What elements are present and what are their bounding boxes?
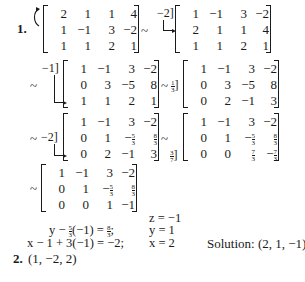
matrix-cell: 3 bbox=[225, 7, 247, 21]
matrix-cell: −1 bbox=[89, 62, 111, 76]
matrix-cell: 2 bbox=[209, 94, 231, 108]
matrix-cell: 3 bbox=[113, 115, 135, 129]
row-operation-label: 13] bbox=[171, 78, 179, 93]
matrix-cell: 3 bbox=[255, 94, 277, 108]
matrix-cell: 83 bbox=[255, 131, 277, 146]
solution: Solution: (2, 1, −1) bbox=[207, 236, 305, 252]
matrix-cell: 1 bbox=[247, 39, 269, 53]
matrix-cell: 0 bbox=[185, 147, 207, 161]
matrix-cell: −2 bbox=[247, 7, 269, 21]
matrix-cell: −1 bbox=[67, 166, 89, 180]
row-equivalent-symbol: ~ bbox=[141, 23, 148, 39]
matrix-cell: 0 bbox=[185, 131, 207, 145]
row-op-arrow-icon bbox=[54, 75, 63, 103]
matrix-cell: −73 bbox=[255, 147, 277, 162]
matrix-cell: 4 bbox=[115, 7, 137, 21]
row-op-arrow-icon bbox=[163, 20, 172, 31]
matrix-cell: 2 bbox=[177, 23, 199, 37]
matrix-cell: −1 bbox=[233, 94, 255, 108]
matrix-cell: 2 bbox=[93, 39, 115, 53]
problem-2-answer: (1, −2, 2) bbox=[28, 251, 77, 267]
matrix-cell: 1 bbox=[225, 23, 247, 37]
matrix-cell: 0 bbox=[43, 198, 65, 212]
row-equivalent-symbol: ~ bbox=[30, 78, 37, 94]
matrix-cell: −1 bbox=[113, 198, 135, 212]
problem-number-2: 2. bbox=[13, 251, 23, 267]
matrix-cell: 3 bbox=[89, 78, 111, 92]
matrix-cell: −2 bbox=[115, 23, 137, 37]
matrix-cell: 1 bbox=[89, 131, 111, 145]
matrix-5: 1−13−201−538302−13 bbox=[63, 113, 159, 161]
matrix-cell: 1 bbox=[45, 39, 67, 53]
swap-arrow-icon bbox=[32, 6, 42, 30]
matrix-cell: 0 bbox=[65, 147, 87, 161]
matrix-4: 1−13−203−5802−13 bbox=[183, 60, 279, 108]
matrix-cell: 1 bbox=[91, 198, 113, 212]
matrix-cell: 3 bbox=[113, 62, 135, 76]
matrix-cell: 8 bbox=[135, 78, 157, 92]
matrix-cell: 2 bbox=[113, 94, 135, 108]
matrix-cell: 1 bbox=[185, 115, 207, 129]
matrix-cell: 2 bbox=[89, 147, 111, 161]
matrix-cell: 1 bbox=[45, 23, 67, 37]
matrix-cell: 0 bbox=[185, 78, 207, 92]
matrix-cell: 3 bbox=[135, 147, 157, 161]
row-operation-label: −1] bbox=[42, 61, 59, 76]
matrix-cell: −1 bbox=[201, 7, 223, 21]
matrix-cell: 1 bbox=[65, 94, 87, 108]
matrix-cell: −5 bbox=[113, 78, 135, 92]
matrix-cell: 3 bbox=[233, 115, 255, 129]
matrix-cell: 1 bbox=[65, 115, 87, 129]
matrix-cell: −53 bbox=[91, 182, 113, 197]
x-value: x = 2 bbox=[149, 236, 175, 251]
matrix-2: 1−13−221141121 bbox=[175, 5, 271, 53]
matrix-cell: 0 bbox=[185, 94, 207, 108]
row-equivalent-symbol: ~ bbox=[161, 78, 168, 94]
matrix-cell: −2 bbox=[135, 115, 157, 129]
row-operation-label: 37] bbox=[170, 148, 178, 163]
matrix-cell: 83 bbox=[135, 131, 157, 146]
matrix-cell: 4 bbox=[247, 23, 269, 37]
matrix-cell: 1 bbox=[69, 39, 91, 53]
matrix-cell: −1 bbox=[113, 147, 135, 161]
matrix-cell: −5 bbox=[233, 78, 255, 92]
matrix-cell: 0 bbox=[67, 198, 89, 212]
matrix-cell: −1 bbox=[209, 115, 231, 129]
x-equation: x − 1 + 3(−1) = −2; bbox=[27, 236, 124, 251]
matrix-cell: −2 bbox=[135, 62, 157, 76]
matrix-cell: 1 bbox=[43, 166, 65, 180]
matrix-cell: −1 bbox=[89, 115, 111, 129]
matrix-cell: −53 bbox=[233, 131, 255, 146]
matrix-cell: −2 bbox=[255, 62, 277, 76]
matrix-cell: 1 bbox=[93, 7, 115, 21]
matrix-cell: 8 bbox=[255, 78, 277, 92]
row-equivalent-symbol: ~ bbox=[30, 181, 37, 197]
row-operation-label: −2] bbox=[41, 130, 58, 145]
matrix-cell: 1 bbox=[177, 39, 199, 53]
matrix-cell: 1 bbox=[69, 7, 91, 21]
matrix-cell: 1 bbox=[135, 94, 157, 108]
matrix-cell: −1 bbox=[69, 23, 91, 37]
matrix-cell: 3 bbox=[209, 78, 231, 92]
matrix-cell: −1 bbox=[209, 62, 231, 76]
matrix-cell: −2 bbox=[255, 115, 277, 129]
matrix-cell: 0 bbox=[209, 147, 231, 161]
matrix-6: 1−13−201−53830073−73 bbox=[183, 113, 279, 161]
matrix-cell: 0 bbox=[65, 78, 87, 92]
matrix-1: 21141−13−21121 bbox=[43, 5, 139, 53]
matrix-cell: 1 bbox=[201, 23, 223, 37]
row-op-arrow-icon bbox=[54, 144, 63, 156]
row-operation-label: −2] bbox=[157, 6, 174, 21]
matrix-cell: 1 bbox=[201, 39, 223, 53]
matrix-cell: 3 bbox=[93, 23, 115, 37]
row-equivalent-symbol: ~ bbox=[30, 131, 37, 147]
matrix-cell: 83 bbox=[113, 182, 135, 197]
matrix-3: 1−13−203−581121 bbox=[63, 60, 159, 108]
matrix-7: 1−13−201−5383001−1 bbox=[41, 164, 137, 212]
matrix-cell: 0 bbox=[65, 131, 87, 145]
matrix-cell: 73 bbox=[233, 147, 255, 162]
matrix-cell: 1 bbox=[177, 7, 199, 21]
matrix-cell: 1 bbox=[185, 62, 207, 76]
matrix-cell: −53 bbox=[113, 131, 135, 146]
matrix-cell: −2 bbox=[113, 166, 135, 180]
